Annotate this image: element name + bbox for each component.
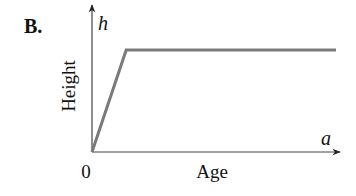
y-axis-symbol: h xyxy=(98,12,108,34)
panel-label: B. xyxy=(24,15,42,37)
height-vs-age-chart: B. h a Height Age 0 xyxy=(0,0,356,196)
height-curve xyxy=(92,50,336,152)
y-axis-label: Height xyxy=(58,59,79,111)
x-axis-label: Age xyxy=(196,161,228,182)
x-axis-symbol: a xyxy=(321,127,331,149)
origin-label: 0 xyxy=(81,161,91,182)
